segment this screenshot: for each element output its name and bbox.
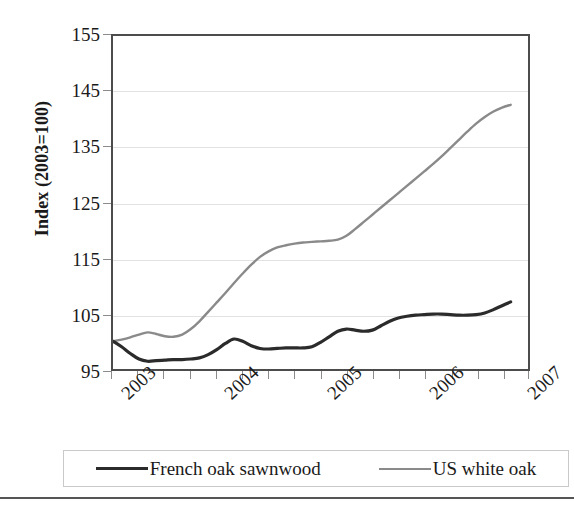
y-axis-tick	[103, 315, 111, 316]
x-axis-tick	[111, 371, 112, 379]
y-tick-label: 115	[52, 250, 100, 269]
y-axis-tick	[103, 146, 111, 147]
y-tick-label: 135	[52, 137, 100, 156]
page-divider	[0, 497, 574, 499]
y-axis-tick	[103, 203, 111, 204]
y-axis-title: Index (2003=100)	[32, 74, 53, 264]
x-axis-tick	[294, 371, 295, 379]
x-axis-tick	[216, 371, 217, 379]
y-tick-label: 125	[52, 194, 100, 213]
x-axis-tick	[321, 371, 322, 379]
x-axis-tick	[268, 371, 269, 379]
y-tick-label: 95	[52, 362, 100, 381]
series-line-french-oak-sawnwood	[113, 302, 511, 361]
legend-line-swatch-icon	[379, 468, 431, 470]
y-tick-label: 105	[52, 306, 100, 325]
legend-line-swatch-icon	[96, 467, 148, 470]
x-axis-tick	[163, 371, 164, 379]
line-chart: Index (2003=100) 155 145 135 125 115 105…	[0, 0, 574, 505]
legend-item-us-white-oak: US white oak	[379, 459, 536, 478]
x-axis-tick	[190, 371, 191, 379]
legend-label: US white oak	[433, 459, 536, 478]
y-axis-tick	[103, 259, 111, 260]
x-axis-tick	[399, 371, 400, 379]
x-axis-tick	[425, 371, 426, 379]
legend-item-french-oak-sawnwood: French oak sawnwood	[96, 459, 321, 478]
y-axis-tick	[103, 371, 111, 372]
legend-label: French oak sawnwood	[150, 459, 321, 478]
chart-legend: French oak sawnwood US white oak	[63, 450, 569, 487]
y-tick-label: 155	[52, 25, 100, 44]
y-axis-tick-labels: 155 145 135 125 115 105 95	[52, 0, 100, 505]
y-axis-tick	[103, 90, 111, 91]
plot-area	[111, 34, 530, 371]
series-lines	[113, 36, 528, 369]
x-axis-tick	[504, 371, 505, 379]
y-axis-tick	[103, 34, 111, 35]
y-tick-label: 145	[52, 81, 100, 100]
series-line-us-white-oak	[113, 105, 511, 341]
x-axis-tick	[373, 371, 374, 379]
x-axis-tick	[478, 371, 479, 379]
x-axis-tick	[528, 371, 529, 379]
